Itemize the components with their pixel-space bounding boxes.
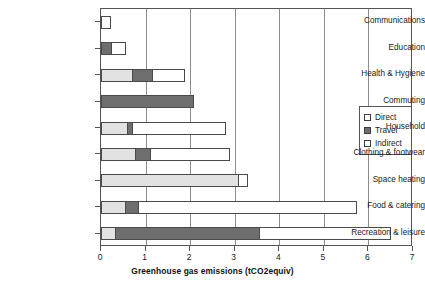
legend-swatch-icon (364, 114, 371, 121)
y-axis-tick (95, 48, 100, 49)
bar-segment (101, 122, 128, 135)
category-label: Recreation & leisure (329, 228, 425, 238)
bar-segment (133, 122, 226, 135)
category-label: Clothing & footwear (329, 148, 425, 158)
bar-chart: Greenhouse gas emissions (tCO2equiv) Dir… (0, 0, 425, 285)
x-axis-label: 0 (90, 252, 110, 262)
x-axis-label: 5 (313, 252, 333, 262)
category-label: Communications (329, 16, 425, 26)
y-axis-tick (95, 206, 100, 207)
bar-segment (101, 42, 112, 55)
bar-segment (101, 201, 126, 214)
bar-segment (116, 227, 260, 240)
y-axis-tick (95, 153, 100, 154)
x-axis-label: 4 (268, 252, 288, 262)
x-axis-tick (412, 246, 413, 251)
y-axis-tick (95, 21, 100, 22)
category-label: Food & catering (329, 201, 425, 211)
category-label: Space heating (329, 175, 425, 185)
y-axis-tick (95, 127, 100, 128)
x-axis-label: 6 (357, 252, 377, 262)
x-axis-tick (278, 246, 279, 251)
bar-segment (101, 69, 133, 82)
x-axis-tick (145, 246, 146, 251)
category-label: Commuting (329, 96, 425, 106)
category-label: Health & Hygiene (329, 69, 425, 79)
bar-segment (239, 174, 248, 187)
y-axis-tick (95, 74, 100, 75)
bar-segment (136, 148, 152, 161)
y-axis-tick (95, 180, 100, 181)
x-axis-label: 3 (224, 252, 244, 262)
bar-segment (139, 201, 357, 214)
x-axis-tick (367, 246, 368, 251)
bar-segment (101, 174, 239, 187)
x-axis-label: 1 (135, 252, 155, 262)
y-axis-tick (95, 233, 100, 234)
x-axis-title: Greenhouse gas emissions (tCO2equiv) (0, 266, 425, 276)
bar-segment (101, 148, 136, 161)
bar-segment (151, 148, 230, 161)
bar-segment (101, 227, 116, 240)
x-axis-label: 7 (402, 252, 422, 262)
x-axis-tick (100, 246, 101, 251)
bar-segment (126, 201, 139, 214)
legend-label: Indirect (375, 139, 402, 148)
bar-segment (133, 69, 153, 82)
legend-swatch-icon (364, 140, 371, 147)
bar-segment (101, 16, 111, 29)
y-axis-tick (95, 101, 100, 102)
category-label: Education (329, 43, 425, 53)
x-axis-tick (189, 246, 190, 251)
x-axis-tick (323, 246, 324, 251)
bar-segment (112, 42, 126, 55)
x-axis-tick (234, 246, 235, 251)
legend-label: Direct (375, 113, 396, 122)
category-label: Household (329, 122, 425, 132)
bar-segment (153, 69, 185, 82)
bar-segment (101, 95, 194, 108)
x-axis-label: 2 (179, 252, 199, 262)
